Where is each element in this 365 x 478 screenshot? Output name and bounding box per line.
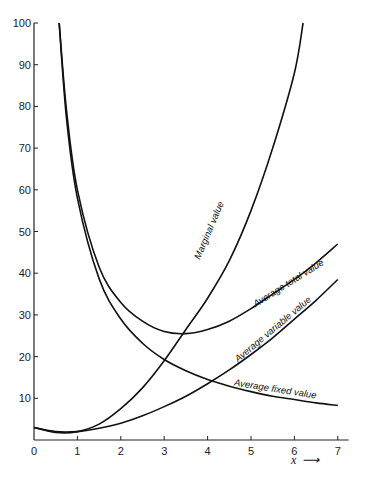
- x-tick-label: 4: [205, 445, 211, 457]
- average-variable-value-curve: [34, 279, 338, 432]
- y-tick-label: 40: [19, 267, 31, 279]
- marginal-value-label: Marginal value: [192, 200, 226, 261]
- y-tick-label: 100: [13, 17, 31, 29]
- average-variable-value-label: Average variable value: [231, 294, 313, 365]
- y-tick-label: 60: [19, 184, 31, 196]
- curve-labels: Marginal valueAverage total valueAverage…: [192, 200, 326, 401]
- y-tick-label: 10: [19, 392, 31, 404]
- y-tick-label: 20: [19, 351, 31, 363]
- y-tick-label: 30: [19, 309, 31, 321]
- x-tick-label: 2: [118, 445, 124, 457]
- x-tick-label: 3: [161, 445, 167, 457]
- x-tick-label: 0: [31, 445, 37, 457]
- curves: [34, 23, 338, 433]
- y-tick-label: 80: [19, 100, 31, 112]
- y-tick-label: 50: [19, 226, 31, 238]
- y-tick-label: 90: [19, 59, 31, 71]
- y-tick-label: 70: [19, 142, 31, 154]
- average-fixed-value-curve: [59, 23, 338, 405]
- marginal-value-curve: [34, 23, 303, 433]
- axes: [34, 23, 349, 440]
- x-tick-label: 7: [335, 445, 341, 457]
- x-tick-label: 5: [248, 445, 254, 457]
- chart: 01234567102030405060708090100 Marginal v…: [0, 0, 365, 478]
- x-axis-label: x: [290, 453, 297, 467]
- x-axis-arrow-icon: ⟶: [302, 453, 320, 467]
- x-tick-label: 1: [74, 445, 80, 457]
